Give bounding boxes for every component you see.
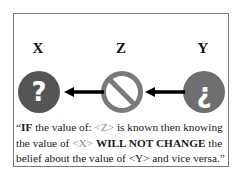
node-x: ? — [17, 70, 61, 114]
prohibited-circle-icon — [100, 70, 144, 114]
question-circle-icon: ? — [17, 70, 61, 114]
svg-text:?: ? — [31, 77, 46, 107]
x-token: <X> — [72, 137, 93, 149]
y-token: <Y> — [129, 152, 150, 164]
inverted-question-circle-icon: ¿ — [182, 70, 226, 114]
node-label-z: Z — [106, 40, 136, 57]
node-label-y: Y — [188, 40, 218, 57]
node-label-x: X — [23, 40, 53, 57]
node-y: ¿ — [182, 70, 226, 114]
z-token: <Z> — [94, 121, 114, 133]
caption-text: “IF the value of: <Z> is known then know… — [16, 120, 228, 167]
svg-text:¿: ¿ — [196, 78, 211, 108]
arrow-z-to-x — [64, 87, 104, 97]
node-z — [100, 70, 144, 114]
arrow-y-to-z — [145, 87, 185, 97]
